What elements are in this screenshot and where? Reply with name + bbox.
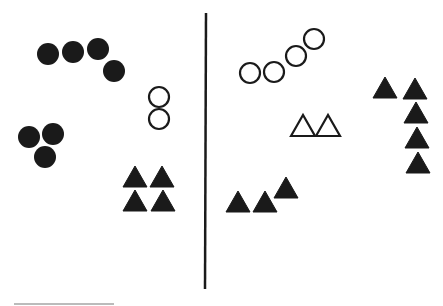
filled-triangle-icon bbox=[373, 77, 397, 98]
divider-line bbox=[205, 13, 206, 289]
filled-triangle-icon bbox=[253, 191, 277, 212]
open-circle-icon bbox=[304, 29, 324, 49]
filled-circle-icon bbox=[42, 123, 64, 145]
left-panel bbox=[18, 38, 175, 211]
vertical-divider bbox=[205, 13, 206, 289]
filled-triangle-icon bbox=[406, 152, 430, 173]
filled-triangle-icon bbox=[404, 102, 428, 123]
open-circle-icon bbox=[264, 62, 284, 82]
caption-text-fragment bbox=[14, 303, 114, 305]
open-triangle-icon bbox=[316, 115, 340, 136]
open-triangle-icon bbox=[291, 115, 315, 136]
filled-circle-icon bbox=[62, 41, 84, 63]
open-circle-icon bbox=[286, 46, 306, 66]
filled-triangle-icon bbox=[274, 177, 298, 198]
filled-triangle-icon bbox=[403, 78, 427, 99]
figure-canvas bbox=[0, 0, 443, 306]
caption-strip bbox=[14, 303, 114, 305]
filled-circle-icon bbox=[18, 126, 40, 148]
filled-triangle-icon bbox=[150, 166, 174, 187]
filled-circle-icon bbox=[103, 60, 125, 82]
filled-triangle-icon bbox=[226, 191, 250, 212]
open-circle-icon bbox=[149, 87, 169, 107]
filled-circle-icon bbox=[34, 146, 56, 168]
filled-circle-icon bbox=[37, 43, 59, 65]
filled-circle-icon bbox=[87, 38, 109, 60]
right-panel bbox=[226, 29, 430, 212]
open-circle-icon bbox=[240, 63, 260, 83]
open-circle-icon bbox=[149, 109, 169, 129]
filled-triangle-icon bbox=[123, 166, 147, 187]
filled-triangle-icon bbox=[405, 127, 429, 148]
filled-triangle-icon bbox=[151, 190, 175, 211]
filled-triangle-icon bbox=[123, 190, 147, 211]
